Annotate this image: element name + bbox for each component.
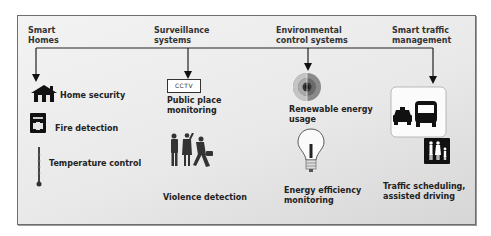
item-fire-detection: Fire detection xyxy=(55,124,118,134)
item-label-line2: monitoring xyxy=(167,106,221,116)
item-public-place-monitoring: Public place monitoring xyxy=(167,96,221,116)
item-label-line1: Renewable energy xyxy=(289,105,373,115)
fire-alarm-icon xyxy=(30,113,46,133)
cctv-icon: CCTV xyxy=(167,79,201,93)
item-home-security: Home security xyxy=(60,91,125,101)
house-icon xyxy=(30,84,58,102)
item-label-line1: Public place xyxy=(167,96,221,106)
item-violence-detection: Violence detection xyxy=(163,193,247,203)
arrow-head-icon xyxy=(304,63,312,71)
earth-core-icon xyxy=(292,72,322,102)
item-label-line1: Energy efficiency xyxy=(284,186,361,196)
arrow-head-icon xyxy=(32,74,40,82)
people-fighting-icon xyxy=(168,133,218,173)
item-energy-efficiency-monitoring: Energy efficiency monitoring xyxy=(284,186,361,206)
item-label-line1: Traffic scheduling, xyxy=(383,182,465,192)
thermometer-icon xyxy=(36,147,42,187)
item-label-line2: assisted driving xyxy=(383,192,465,202)
item-label-line2: usage xyxy=(289,115,373,125)
item-temperature-control: Temperature control xyxy=(49,159,141,169)
arrow-head-icon xyxy=(429,76,437,84)
item-renewable-energy-usage: Renewable energy usage xyxy=(289,105,373,125)
item-label-line2: monitoring xyxy=(284,196,361,206)
item-traffic-scheduling: Traffic scheduling, assisted driving xyxy=(383,182,465,202)
light-bulb-icon xyxy=(296,128,326,174)
taxi-bus-pedestrians-icon xyxy=(390,86,460,166)
arrow-head-icon xyxy=(184,71,192,79)
